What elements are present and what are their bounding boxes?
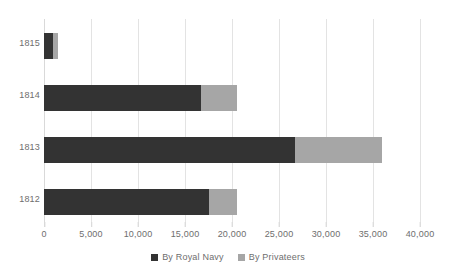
legend-swatch-icon-royal-navy xyxy=(151,254,158,261)
tick-mark-icon xyxy=(279,222,280,227)
tick-mark-icon xyxy=(373,222,374,227)
tick-mark-icon xyxy=(91,222,92,227)
bar-row-1813 xyxy=(44,137,382,163)
bar-segment-royal-navy-1812 xyxy=(44,189,209,215)
legend-item-royal-navy[interactable]: By Royal Navy xyxy=(151,252,224,262)
gridline-35000 xyxy=(373,19,374,227)
legend-swatch-icon-privateers xyxy=(238,254,245,261)
x-axis: 0 5,000 10,000 15,000 20,000 25,000 30,0… xyxy=(0,228,456,244)
stacked-bar-chart: 1815 1814 1813 1812 0 5, xyxy=(0,0,456,275)
x-axis-tick-20000: 20,000 xyxy=(218,228,247,240)
tick-mark-icon xyxy=(326,222,327,227)
tick-mark-icon xyxy=(420,222,421,227)
x-axis-tick-5000: 5,000 xyxy=(79,228,103,240)
bar-row-1812 xyxy=(44,189,237,215)
bar-segment-royal-navy-1813 xyxy=(44,137,295,163)
tick-mark-icon xyxy=(185,222,186,227)
legend-item-privateers[interactable]: By Privateers xyxy=(238,252,305,262)
bar-row-1814 xyxy=(44,85,237,111)
bar-segment-royal-navy-1814 xyxy=(44,85,201,111)
gridline-25000 xyxy=(279,19,280,227)
bar-segment-privateers-1812 xyxy=(209,189,237,215)
x-axis-tick-30000: 30,000 xyxy=(312,228,341,240)
plot-area xyxy=(44,19,420,227)
bar-segment-privateers-1813 xyxy=(295,137,382,163)
y-axis-label-1: 1814 xyxy=(0,90,40,100)
legend-label-privateers: By Privateers xyxy=(249,252,305,262)
y-axis-label-3: 1812 xyxy=(0,194,40,204)
x-axis-tick-40000: 40,000 xyxy=(406,228,435,240)
legend-label-royal-navy: By Royal Navy xyxy=(162,252,224,262)
gridline-40000 xyxy=(420,19,421,227)
bar-segment-privateers-1815 xyxy=(53,33,58,59)
x-axis-tick-35000: 35,000 xyxy=(359,228,388,240)
tick-mark-icon xyxy=(138,222,139,227)
bar-segment-royal-navy-1815 xyxy=(44,33,53,59)
x-axis-tick-25000: 25,000 xyxy=(265,228,294,240)
bar-segment-privateers-1814 xyxy=(201,85,237,111)
tick-mark-icon xyxy=(232,222,233,227)
x-axis-tick-0: 0 xyxy=(41,228,46,240)
y-axis-label-2: 1813 xyxy=(0,142,40,152)
x-axis-tick-10000: 10,000 xyxy=(124,228,153,240)
gridline-30000 xyxy=(326,19,327,227)
y-axis-label-0: 1815 xyxy=(0,38,40,48)
bar-row-1815 xyxy=(44,33,58,59)
x-axis-tick-15000: 15,000 xyxy=(171,228,200,240)
tick-mark-icon xyxy=(44,222,45,227)
chart-legend: By Royal Navy By Privateers xyxy=(0,252,456,262)
